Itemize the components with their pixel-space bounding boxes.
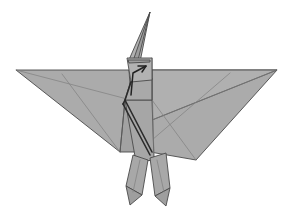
origami-bird-illustration <box>0 0 293 218</box>
origami-figure-container <box>0 0 293 218</box>
head-top-band-facet <box>128 60 150 63</box>
